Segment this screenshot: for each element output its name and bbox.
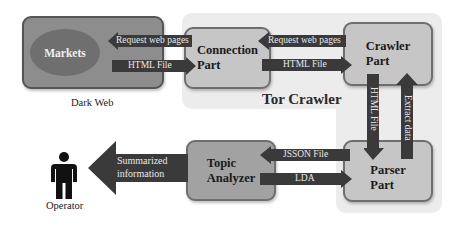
edge-label-summary-line2: information xyxy=(117,168,164,179)
connection-part-line2: Part xyxy=(197,58,258,73)
crawler-part-line1: Crawler xyxy=(366,39,410,54)
topic-analyzer-line1: Topic xyxy=(207,156,256,171)
topic-analyzer-line2: Analyzer xyxy=(207,171,256,186)
edge-label-html-connection: HTML File xyxy=(128,60,172,70)
edge-label-json-topic: JSSON File xyxy=(283,149,328,159)
parser-part-line2: Part xyxy=(370,178,405,193)
edge-label-summary-line1: Summarized xyxy=(117,155,168,166)
operator-node xyxy=(50,152,78,204)
connection-part-line1: Connection xyxy=(197,43,258,58)
crawler-part-line2: Part xyxy=(366,54,410,69)
edge-label-request-markets: Request web pages xyxy=(116,35,189,45)
edge-label-lda-parser: LDA xyxy=(295,173,315,183)
edge-label-extract-crawler: Extract data xyxy=(403,95,413,141)
edge-label-request-connection: Request web pages xyxy=(268,35,341,45)
crawler-part-node: Crawler Part xyxy=(343,22,433,86)
markets-label: Markets xyxy=(44,47,86,59)
markets-node: Markets xyxy=(30,29,100,76)
edge-label-html-parser: HTML File xyxy=(369,87,379,131)
parser-part-node: Parser Part xyxy=(343,140,433,202)
operator-label: Operator xyxy=(46,200,83,211)
edge-label-html-crawler: HTML File xyxy=(283,59,327,69)
person-icon xyxy=(50,152,78,200)
tor-crawler-label: Tor Crawler xyxy=(262,91,342,108)
dark-web-label: Dark Web xyxy=(71,97,113,108)
parser-part-line1: Parser xyxy=(370,163,405,178)
